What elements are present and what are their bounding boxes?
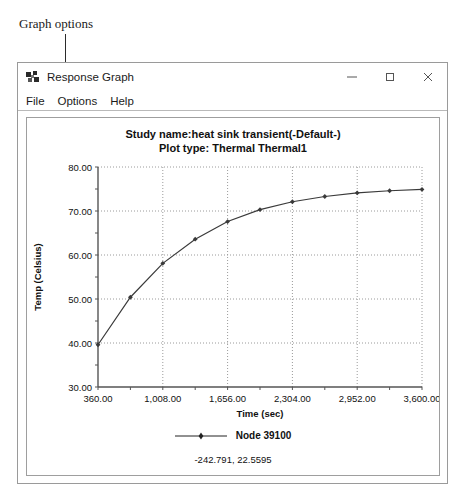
app-graph-icon	[25, 70, 40, 85]
svg-text:30.00: 30.00	[68, 382, 92, 393]
svg-text:360.00: 360.00	[83, 393, 112, 404]
menu-bar: File Options Help	[18, 91, 447, 111]
minimize-button[interactable]	[333, 63, 371, 91]
chart-content-panel: Study name:heat sink transient(-Default-…	[26, 117, 440, 476]
plot-type-line: Plot type: Thermal Thermal1	[27, 141, 439, 155]
chart-legend: Node 39100	[27, 430, 439, 441]
annotation-label: Graph options	[19, 16, 93, 32]
legend-series-label: Node 39100	[236, 430, 292, 441]
coordinate-readout: -242.791, 22.5595	[27, 454, 439, 465]
svg-text:2,304.00: 2,304.00	[274, 393, 311, 404]
legend-line-swatch	[175, 431, 227, 441]
study-name-line: Study name:heat sink transient(-Default-…	[27, 127, 439, 141]
title-bar: Response Graph	[18, 63, 447, 91]
svg-text:80.00: 80.00	[68, 162, 92, 173]
svg-text:40.00: 40.00	[68, 338, 92, 349]
response-graph-window: Response Graph File Options He	[17, 62, 448, 484]
maximize-button[interactable]	[371, 63, 409, 91]
window-title: Response Graph	[47, 71, 134, 83]
svg-text:3,600.00: 3,600.00	[404, 393, 439, 404]
svg-text:1,008.00: 1,008.00	[144, 393, 181, 404]
menu-item-help[interactable]: Help	[110, 95, 134, 107]
svg-text:50.00: 50.00	[68, 294, 92, 305]
chart-heading: Study name:heat sink transient(-Default-…	[27, 127, 439, 155]
chart-plot-area: 30.0040.0050.0060.0070.0080.00360.001,00…	[27, 155, 439, 430]
svg-text:1,656.00: 1,656.00	[209, 393, 246, 404]
menu-item-options[interactable]: Options	[58, 95, 98, 107]
menu-item-file[interactable]: File	[26, 95, 45, 107]
svg-text:70.00: 70.00	[68, 206, 92, 217]
svg-text:2,952.00: 2,952.00	[339, 393, 376, 404]
svg-text:Temp (Celsius): Temp (Celsius)	[32, 243, 43, 310]
window-controls	[333, 63, 447, 91]
svg-text:60.00: 60.00	[68, 250, 92, 261]
chart-footer: Node 39100 -242.791, 22.5595	[27, 430, 439, 475]
svg-text:Time (sec): Time (sec)	[237, 408, 284, 419]
close-button[interactable]	[409, 63, 447, 91]
response-graph-chart: 30.0040.0050.0060.0070.0080.00360.001,00…	[27, 155, 439, 430]
